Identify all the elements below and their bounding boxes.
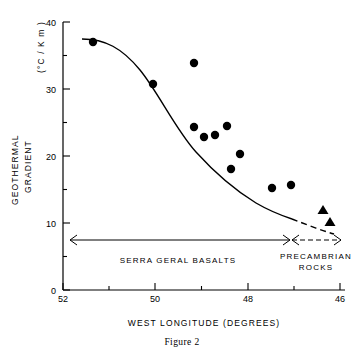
y-axis-title-line2: GRADIENT — [23, 140, 33, 193]
y-axis-units: (°C / K m ) — [36, 21, 46, 73]
data-point — [149, 80, 157, 88]
x-tick-label-46: 46 — [335, 294, 345, 304]
y-axis-ticks — [63, 22, 70, 290]
figure-container: 0 10 20 30 40 52 50 48 46 GEOTHERMAL GRA… — [0, 0, 364, 351]
annotation-arrow-basalts — [70, 235, 290, 245]
data-points-triangles — [318, 205, 336, 226]
data-point — [268, 184, 276, 192]
x-tick-label-52: 52 — [58, 294, 68, 304]
data-point — [227, 165, 235, 173]
data-point — [89, 38, 97, 46]
y-tick-label-0: 0 — [51, 286, 56, 296]
data-point — [190, 123, 198, 131]
x-tick-label-50: 50 — [150, 294, 160, 304]
data-point — [287, 181, 295, 189]
data-point — [223, 122, 231, 130]
annotation-label-precambrian-line1: PRECAMBRIAN — [280, 252, 352, 261]
y-tick-label-20: 20 — [46, 152, 56, 162]
chart-svg: 0 10 20 30 40 52 50 48 46 GEOTHERMAL GRA… — [0, 0, 364, 351]
x-axis-ticks — [63, 283, 340, 290]
data-point — [200, 133, 208, 141]
x-tick-label-48: 48 — [243, 294, 253, 304]
y-axis-title-line1: GEOTHERMAL — [10, 134, 20, 205]
y-tick-label-10: 10 — [46, 219, 56, 229]
annotation-label-basalts: SERRA GERAL BASALTS — [120, 256, 237, 265]
annotation-arrow-precambrian — [292, 235, 341, 245]
y-tick-label-30: 30 — [46, 85, 56, 95]
data-point — [236, 150, 244, 158]
x-axis-title: WEST LONGITUDE (DEGREES) — [128, 318, 280, 328]
figure-caption: Figure 2 — [164, 337, 199, 347]
data-point-triangle — [318, 205, 329, 214]
data-point-triangle — [325, 217, 336, 226]
data-point — [211, 131, 219, 139]
data-points-circles — [89, 38, 295, 192]
fitted-curve-solid — [82, 39, 292, 219]
data-point — [190, 59, 198, 67]
y-tick-label-40: 40 — [46, 18, 56, 28]
annotation-label-precambrian-line2: ROCKS — [299, 263, 333, 272]
